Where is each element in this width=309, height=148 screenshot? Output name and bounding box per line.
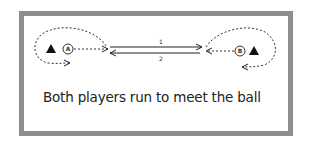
diagram-caption: Both players run to meet the ball (43, 89, 261, 105)
svg-text:B: B (238, 47, 243, 54)
player-a: A (63, 44, 73, 54)
pass-2-label: 2 (159, 55, 163, 62)
player-b: B (235, 46, 245, 56)
cone-left-icon (46, 44, 56, 53)
cone-right-icon (249, 46, 259, 55)
pass-1-label: 1 (159, 38, 163, 45)
svg-text:A: A (66, 45, 71, 52)
drill-diagram: A 1 2 B (0, 0, 309, 148)
